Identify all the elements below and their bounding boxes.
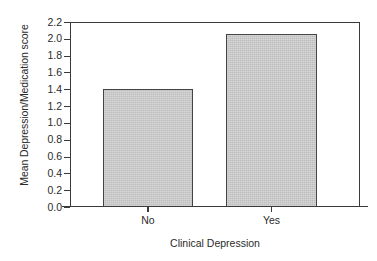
y-axis-tick-label: 1.4 (30, 84, 62, 95)
bar-no (103, 89, 193, 207)
x-axis-title: Clinical Depression (70, 237, 360, 250)
y-axis-tick-label: 1.0 (30, 117, 62, 128)
y-axis-tick-label: 0.0 (30, 202, 62, 213)
y-axis-tick-label: 0.6 (30, 151, 62, 162)
y-axis-tick-label: 1.8 (30, 50, 62, 61)
bars-layer (70, 22, 360, 207)
bar-yes (226, 34, 317, 207)
x-axis-tick-mark (271, 207, 272, 212)
y-axis-tick-label: 0.4 (30, 168, 62, 179)
y-axis-tick-label: 1.6 (30, 67, 62, 78)
y-axis-tick-labels: 2.22.01.81.61.41.21.00.80.60.40.20.0 (30, 0, 62, 261)
y-axis-tick-label: 2.2 (30, 17, 62, 28)
y-axis-tick-label: 2.0 (30, 33, 62, 44)
y-axis-tick-label: 0.8 (30, 134, 62, 145)
x-axis-tick-label-yes: Yes (227, 214, 317, 227)
x-axis-tick-label-no: No (103, 214, 193, 227)
y-axis-tick-label: 1.2 (30, 101, 62, 112)
bar-chart-figure: Mean Depression/Medication score 2.22.01… (0, 0, 377, 261)
x-axis-line (62, 206, 368, 207)
x-axis-tick-mark (147, 207, 148, 212)
y-axis-tick-label: 0.2 (30, 185, 62, 196)
